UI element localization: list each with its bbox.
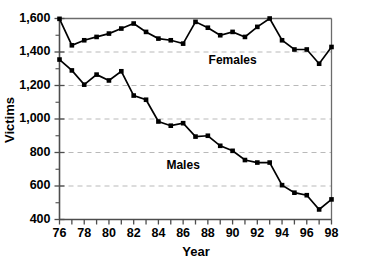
data-point-males-85 <box>168 123 173 128</box>
y-tick-label-1000: 1,000 <box>19 111 50 125</box>
chart-figure: 4006008001,0001,2001,4001,600 7678808284… <box>0 0 371 265</box>
series-line-females <box>60 19 332 64</box>
y-tick-label-600: 600 <box>30 178 51 192</box>
data-point-males-89 <box>218 144 223 149</box>
data-point-females-93 <box>267 16 272 21</box>
data-point-males-98 <box>329 197 334 202</box>
y-tick-labels: 4006008001,0001,2001,4001,600 <box>19 11 50 226</box>
data-point-males-81 <box>119 69 124 74</box>
x-tick-label-94: 94 <box>275 226 289 240</box>
data-point-females-79 <box>94 35 99 40</box>
x-tick-label-90: 90 <box>226 226 240 240</box>
data-point-males-97 <box>317 207 322 212</box>
data-point-males-88 <box>206 133 211 138</box>
data-point-females-82 <box>131 21 136 26</box>
x-axis-title: Year <box>182 244 209 259</box>
data-point-males-77 <box>70 68 75 73</box>
data-point-males-82 <box>131 93 136 98</box>
data-point-males-78 <box>82 82 87 87</box>
data-point-females-86 <box>181 41 186 46</box>
y-tick-label-1200: 1,200 <box>19 78 50 92</box>
data-point-males-80 <box>107 78 112 83</box>
data-point-males-79 <box>94 72 99 77</box>
data-point-females-97 <box>317 61 322 66</box>
data-point-females-78 <box>82 38 87 43</box>
data-point-males-90 <box>230 149 235 154</box>
x-tick-labels: 767880828486889092949698 <box>53 226 339 240</box>
data-point-females-76 <box>57 17 62 22</box>
data-point-males-93 <box>267 160 272 165</box>
y-tick-label-1400: 1,400 <box>19 44 50 58</box>
x-tick-label-96: 96 <box>300 226 314 240</box>
series-males <box>57 57 334 212</box>
data-point-males-76 <box>57 57 62 62</box>
data-point-females-96 <box>304 47 309 52</box>
data-point-males-92 <box>255 160 260 165</box>
data-point-females-89 <box>218 33 223 38</box>
series-females <box>57 16 334 66</box>
data-point-females-80 <box>107 31 112 36</box>
y-tick-label-800: 800 <box>30 145 51 159</box>
x-tick-label-76: 76 <box>53 226 67 240</box>
data-point-males-84 <box>156 119 161 124</box>
data-point-males-95 <box>292 190 297 195</box>
data-point-females-90 <box>230 30 235 35</box>
x-tick-label-78: 78 <box>77 226 91 240</box>
x-tick-label-88: 88 <box>201 226 215 240</box>
x-tick-label-98: 98 <box>325 226 339 240</box>
data-point-females-81 <box>119 26 124 31</box>
x-tick-label-80: 80 <box>102 226 116 240</box>
victims-by-year-line-chart: 4006008001,0001,2001,4001,600 7678808284… <box>0 0 371 265</box>
data-point-females-88 <box>206 25 211 30</box>
y-axis <box>55 19 65 220</box>
x-tick-label-86: 86 <box>176 226 190 240</box>
data-point-females-95 <box>292 47 297 52</box>
data-point-females-91 <box>243 35 248 40</box>
data-point-females-92 <box>255 25 260 30</box>
y-tick-label-400: 400 <box>30 212 51 226</box>
x-tick-label-82: 82 <box>127 226 141 240</box>
data-point-males-91 <box>243 158 248 163</box>
data-point-females-85 <box>168 38 173 43</box>
data-point-females-87 <box>193 20 198 25</box>
y-axis-title: Victims <box>2 97 17 143</box>
data-point-females-98 <box>329 45 334 50</box>
data-point-males-87 <box>193 134 198 139</box>
x-axis <box>60 220 332 225</box>
series-label-males: Males <box>166 158 200 172</box>
data-point-females-84 <box>156 36 161 41</box>
data-point-females-94 <box>280 38 285 43</box>
data-point-females-77 <box>70 43 75 48</box>
series-label-females: Females <box>209 53 257 67</box>
data-point-males-94 <box>280 183 285 188</box>
data-point-males-83 <box>144 97 149 102</box>
data-point-females-83 <box>144 30 149 35</box>
x-tick-label-92: 92 <box>250 226 264 240</box>
y-tick-label-1600: 1,600 <box>19 11 50 25</box>
data-point-males-96 <box>304 193 309 198</box>
x-tick-label-84: 84 <box>151 226 165 240</box>
data-point-males-86 <box>181 121 186 126</box>
